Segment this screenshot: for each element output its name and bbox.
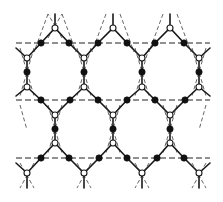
filled-node <box>95 40 101 46</box>
open-nodes <box>24 25 202 176</box>
open-node <box>110 25 116 31</box>
filled-node <box>181 40 187 46</box>
filled-node <box>167 126 173 132</box>
filled-node <box>139 69 145 75</box>
open-node <box>81 55 87 61</box>
filled-node <box>38 155 44 161</box>
open-node <box>52 140 58 146</box>
kagome-lattice-diagram <box>0 0 223 202</box>
open-node <box>110 140 116 146</box>
filled-node <box>66 40 72 46</box>
open-node <box>139 84 145 90</box>
filled-node <box>110 126 116 132</box>
filled-node <box>181 155 187 161</box>
filled-node <box>24 69 30 75</box>
open-node <box>81 170 87 176</box>
solid-bonds <box>16 14 210 188</box>
filled-node <box>152 40 158 46</box>
filled-node <box>95 97 101 103</box>
open-node <box>167 25 173 31</box>
filled-node <box>154 155 160 161</box>
filled-node <box>124 40 130 46</box>
filled-node <box>52 126 58 132</box>
open-node <box>52 112 58 118</box>
open-node <box>139 170 145 176</box>
open-node <box>167 140 173 146</box>
filled-node <box>182 97 188 103</box>
open-node <box>139 55 145 61</box>
filled-node <box>124 97 130 103</box>
filled-node <box>196 69 202 75</box>
open-node <box>167 112 173 118</box>
filled-node <box>38 40 44 46</box>
filled-node <box>81 69 87 75</box>
open-node <box>196 55 202 61</box>
open-node <box>81 84 87 90</box>
open-node <box>110 112 116 118</box>
filled-node <box>96 155 102 161</box>
filled-node <box>66 155 72 161</box>
open-node <box>24 84 30 90</box>
open-node <box>24 170 30 176</box>
filled-node <box>38 97 44 103</box>
filled-node <box>67 97 73 103</box>
dashed-diagonal-overlay <box>20 14 206 188</box>
filled-node <box>152 97 158 103</box>
open-node <box>196 170 202 176</box>
open-node <box>24 55 30 61</box>
filled-node <box>124 155 130 161</box>
open-node <box>196 84 202 90</box>
open-node <box>52 25 58 31</box>
